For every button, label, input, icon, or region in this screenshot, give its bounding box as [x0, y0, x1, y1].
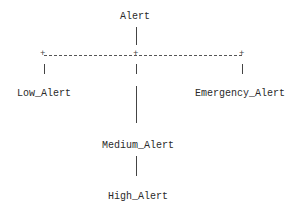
connector-right-down [242, 64, 243, 74]
connector-horizontal [44, 55, 242, 56]
junction-right: + [239, 50, 244, 59]
node-medium-alert: Medium_Alert [102, 141, 174, 151]
connector-root-down [136, 27, 137, 45]
node-emergency-alert: Emergency_Alert [195, 89, 285, 99]
node-high-alert: High_Alert [108, 192, 168, 202]
connector-center-to-medium [136, 86, 137, 123]
connector-medium-to-high [136, 156, 137, 176]
node-low-alert: Low_Alert [17, 89, 71, 99]
connector-center-down [136, 64, 137, 74]
junction-center: + [133, 50, 138, 59]
junction-left: + [40, 50, 45, 59]
alert-hierarchy-diagram: Alert + + + Low_Alert Emergency_Alert Me… [0, 0, 304, 217]
node-alert: Alert [120, 12, 150, 22]
connector-left-down [44, 64, 45, 74]
